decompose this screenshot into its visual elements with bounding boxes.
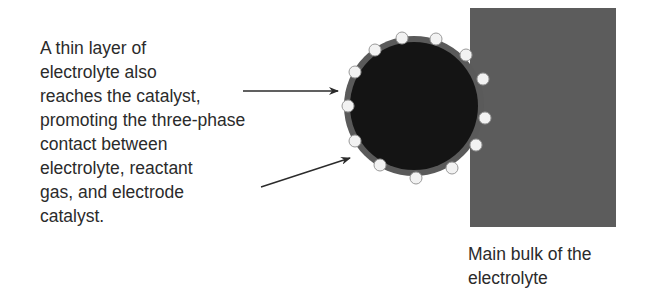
diagram-canvas: A thin layer of electrolyte also reaches… bbox=[0, 0, 648, 301]
annotation-line: reaches the catalyst, bbox=[40, 84, 245, 108]
label-line: electrolyte bbox=[468, 266, 592, 290]
annotation-line: A thin layer of bbox=[40, 36, 245, 60]
annotation-line: electrolyte also bbox=[40, 60, 245, 84]
annotation-line: promoting the three-phase bbox=[40, 108, 245, 132]
annotation-line: catalyst. bbox=[40, 204, 245, 228]
catalyst-particle bbox=[350, 42, 478, 170]
electrolyte-bulk-label: Main bulk of the electrolyte bbox=[468, 242, 592, 290]
electrolyte-bulk-block bbox=[470, 8, 616, 227]
annotation-line: contact between bbox=[40, 132, 245, 156]
arrow-to-film-lower bbox=[261, 158, 350, 187]
three-phase-contact-annotation: A thin layer of electrolyte also reaches… bbox=[40, 36, 245, 228]
label-line: Main bulk of the bbox=[468, 242, 592, 266]
annotation-line: gas, and electrode bbox=[40, 180, 245, 204]
annotation-line: electrolyte, reactant bbox=[40, 156, 245, 180]
